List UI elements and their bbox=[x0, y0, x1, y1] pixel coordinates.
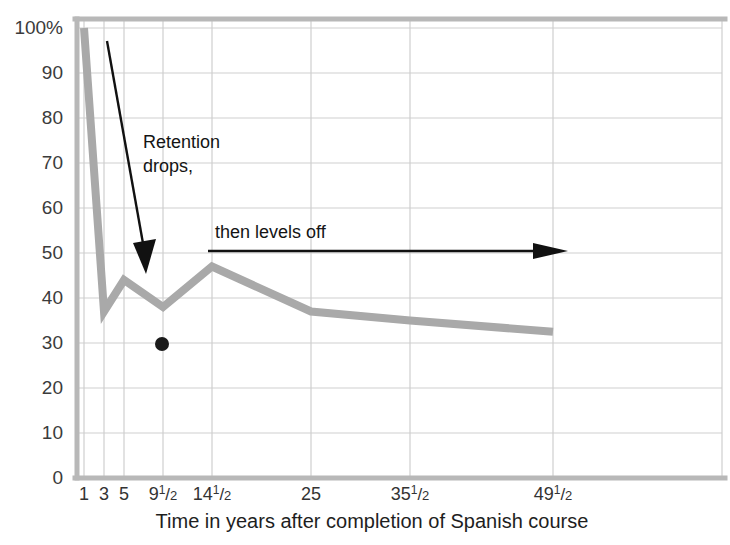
y-axis-tick-label: 20 bbox=[42, 377, 63, 398]
chart-background bbox=[0, 0, 730, 545]
retention-line-chart: 0102030405060708090100% 13591/2141/22535… bbox=[0, 0, 730, 545]
y-axis-tick-label: 90 bbox=[42, 62, 63, 83]
annotation-retention-line1: Retention bbox=[143, 132, 220, 152]
y-axis-tick-label: 60 bbox=[42, 197, 63, 218]
y-axis-tick-label: 80 bbox=[42, 107, 63, 128]
chart-canvas: 0102030405060708090100% 13591/2141/22535… bbox=[0, 0, 730, 545]
y-axis-tick-label: 40 bbox=[42, 287, 63, 308]
y-axis-tick-label: 50 bbox=[42, 242, 63, 263]
y-axis-tick-label: 70 bbox=[42, 152, 63, 173]
x-axis-tick-label: 25 bbox=[301, 484, 321, 504]
x-axis-tick-label: 1 bbox=[79, 484, 89, 504]
y-axis-tick-label: 30 bbox=[42, 332, 63, 353]
y-axis-tick-label: 100% bbox=[14, 17, 63, 38]
x-axis-tick-label: 3 bbox=[99, 484, 109, 504]
annotation-levels-off-label: then levels off bbox=[215, 222, 327, 242]
annotation-retention-line2: drops, bbox=[143, 156, 193, 176]
data-point-marker bbox=[155, 337, 169, 351]
y-axis-tick-label: 0 bbox=[52, 467, 63, 488]
x-axis-tick-label: 5 bbox=[119, 484, 129, 504]
x-axis-title: Time in years after completion of Spanis… bbox=[156, 510, 589, 532]
y-axis-tick-label: 10 bbox=[42, 422, 63, 443]
data-markers bbox=[155, 337, 169, 351]
